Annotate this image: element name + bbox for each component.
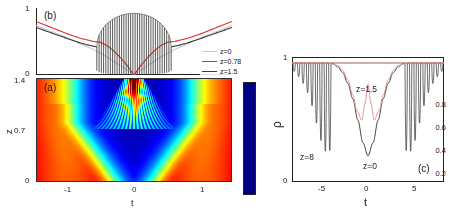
panel-c-annot-z0: z=0 <box>363 161 377 171</box>
panel-c-annot-z15: z=1.5 <box>356 84 377 94</box>
panel-b-legend: z=0 z=0.78 z=1.5 <box>200 45 258 77</box>
panel-b-tag: (b) <box>44 10 56 21</box>
panel-c-xtick-5: 5 <box>412 184 416 193</box>
panel-a-heatmap <box>36 78 232 182</box>
panel-a-xlabel: t <box>131 198 134 208</box>
panel-a-xtick-neg1: -1 <box>64 185 71 194</box>
legend-item-z0[interactable]: z=0 <box>202 46 256 56</box>
panel-c-ytick-0: 0 <box>283 176 287 185</box>
legend-label-z078: z=0.78 <box>220 57 241 66</box>
panel-a-ylabel: z <box>4 130 14 135</box>
panel-a-ytick-14: 1.4 <box>14 76 25 85</box>
panel-c-xlabel: t <box>364 196 367 208</box>
panel-a-xtick-0: 0 <box>132 185 136 194</box>
colorbar-gradient <box>244 83 255 194</box>
panel-c-xtick-0: 0 <box>364 184 368 193</box>
panel-c-annot-z8: z=8 <box>300 152 314 162</box>
panel-c-ylabel: ρ <box>270 121 284 128</box>
legend-label-z0: z=0 <box>220 47 231 56</box>
legend-item-z15[interactable]: z=1.5 <box>202 66 256 76</box>
legend-swatch-z15 <box>202 71 217 72</box>
panel-c-tag: (c) <box>418 163 430 174</box>
panel-b-ytick-1: 1 <box>25 4 29 13</box>
legend-swatch-z0 <box>202 51 217 52</box>
legend-item-z078[interactable]: z=0.78 <box>202 56 256 66</box>
panel-c-ytick-1: 1 <box>283 53 287 62</box>
panel-a-ytick-0: 0 <box>25 176 29 185</box>
legend-swatch-z078 <box>202 61 217 62</box>
panel-b-ytick-0: 0 <box>25 69 29 78</box>
panel-a-intensity-map <box>36 78 232 182</box>
panel-a-xtick-1: 1 <box>200 185 204 194</box>
panel-c-xtick-neg5: -5 <box>318 184 325 193</box>
colorbar <box>243 82 256 195</box>
panel-a-tag: (a) <box>44 82 56 93</box>
figure-root: (b) 1 0 power z=0 z=0.78 z=1.5 (a) 1.4 0… <box>0 0 461 218</box>
legend-label-z15: z=1.5 <box>220 67 237 76</box>
panel-a-ytick-07: 0.7 <box>14 126 25 135</box>
